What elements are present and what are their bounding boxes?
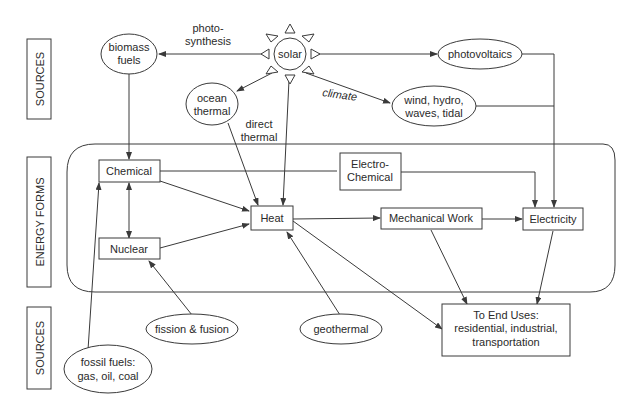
source-biomass-fuels: biomass fuels	[101, 34, 157, 74]
svg-text:Nuclear: Nuclear	[110, 243, 148, 255]
solar-label: solar	[278, 48, 302, 60]
form-heat: Heat	[251, 206, 293, 230]
band-energy-forms-label: ENERGY FORMS	[34, 177, 46, 266]
energy-flow-diagram: SOURCES ENERGY FORMS SOURCES	[0, 0, 638, 409]
svg-text:transportation: transportation	[472, 336, 539, 348]
source-fossil-fuels: fossil fuels: gas, oil, coal	[64, 345, 152, 393]
svg-text:Electro-: Electro-	[351, 158, 389, 170]
svg-text:fuels: fuels	[117, 54, 141, 66]
svg-text:geothermal: geothermal	[313, 323, 368, 335]
svg-text:thermal: thermal	[194, 105, 231, 117]
edge-label-direct-thermal: direct thermal	[241, 118, 278, 143]
svg-text:Heat: Heat	[260, 212, 283, 224]
form-chemical: Chemical	[99, 160, 160, 182]
svg-text:photovoltaics: photovoltaics	[448, 48, 513, 60]
svg-text:waves, tidal: waves, tidal	[404, 107, 462, 119]
svg-text:fission & fusion: fission & fusion	[155, 323, 229, 335]
form-electricity: Electricity	[523, 208, 583, 230]
svg-text:direct: direct	[246, 118, 273, 130]
svg-text:thermal: thermal	[241, 131, 278, 143]
source-ocean-thermal: ocean thermal	[186, 83, 238, 125]
svg-text:residential, industrial,: residential, industrial,	[454, 322, 557, 334]
form-electrochemical: Electro- Chemical	[340, 153, 401, 190]
source-fission-fusion: fission & fusion	[146, 314, 238, 344]
svg-text:Mechanical Work: Mechanical Work	[389, 212, 474, 224]
svg-text:gas, oil, coal: gas, oil, coal	[77, 370, 138, 382]
band-sources-bottom: SOURCES	[27, 307, 51, 389]
svg-text:ocean: ocean	[197, 92, 227, 104]
band-sources-top: SOURCES	[27, 39, 51, 119]
source-geothermal: geothermal	[300, 314, 382, 344]
end-uses-box: To End Uses: residential, industrial, tr…	[442, 304, 570, 356]
band-energy-forms: ENERGY FORMS	[27, 157, 51, 287]
source-photovoltaics: photovoltaics	[438, 39, 522, 69]
edge-label-climate: climate	[322, 86, 358, 103]
svg-text:photo-: photo-	[192, 22, 224, 34]
svg-text:synthesis: synthesis	[185, 35, 231, 47]
band-sources-top-label: SOURCES	[34, 52, 46, 106]
form-mechanical-work: Mechanical Work	[381, 208, 482, 229]
svg-text:Electricity: Electricity	[529, 213, 577, 225]
svg-text:fossil fuels:: fossil fuels:	[81, 356, 135, 368]
band-sources-bottom-label: SOURCES	[34, 321, 46, 375]
svg-text:To End Uses:: To End Uses:	[473, 309, 538, 321]
form-nuclear: Nuclear	[99, 238, 160, 259]
svg-text:biomass: biomass	[109, 41, 150, 53]
edge-label-photosynthesis: photo- synthesis	[185, 22, 231, 47]
svg-text:Chemical: Chemical	[347, 171, 393, 183]
svg-text:Chemical: Chemical	[106, 165, 152, 177]
svg-text:wind, hydro,: wind, hydro,	[403, 94, 463, 106]
source-wind-hydro: wind, hydro, waves, tidal	[392, 86, 476, 126]
